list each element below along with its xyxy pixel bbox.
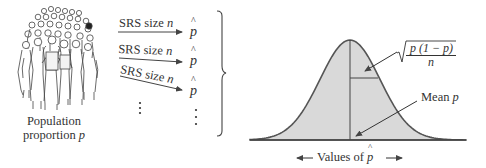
srs-label-1: SRS size n [119, 16, 173, 31]
caption-word: proportion [23, 128, 76, 142]
p-hat-symbol: p [367, 150, 373, 164]
arrow-icon [119, 58, 182, 62]
formula-numerator: p (1 − p) [406, 42, 456, 56]
mean-text: Mean [421, 90, 449, 104]
srs-label-2: SRS size n [118, 42, 173, 59]
mean-label: Mean p [421, 90, 459, 105]
formula-denominator: n [406, 56, 456, 69]
p-hat-symbol: p [190, 53, 197, 68]
p-hat-symbol: p [190, 24, 197, 39]
p-hat-symbol: p [190, 83, 197, 98]
hat-accent: ^ [191, 74, 196, 85]
curly-brace-icon [217, 11, 226, 136]
axis-variable: ^p [367, 150, 373, 164]
srs-text: SRS size [118, 42, 163, 58]
hat-accent: ^ [191, 15, 196, 26]
continuation-dots [139, 102, 197, 125]
axis-text: Values of [317, 150, 364, 164]
mean-variable: p [453, 90, 459, 104]
p-hat-1: ^p [190, 24, 197, 40]
p-hat-3: ^p [190, 83, 197, 99]
sd-formula: p (1 − p) n [406, 42, 456, 69]
caption-line-2: proportion p [18, 128, 90, 142]
caption-variable: p [79, 128, 85, 142]
crowd-illustration [18, 6, 98, 110]
axis-label: Values of ^p [317, 150, 373, 165]
srs-variable: n [167, 16, 173, 30]
caption-line-1: Population [18, 114, 90, 128]
srs-text: SRS size [119, 16, 164, 30]
diagram-graphics [0, 0, 486, 168]
srs-variable: n [166, 44, 173, 58]
hat-accent: ^ [191, 44, 196, 55]
population-caption: Population proportion p [18, 114, 90, 142]
p-hat-2: ^p [190, 53, 197, 69]
